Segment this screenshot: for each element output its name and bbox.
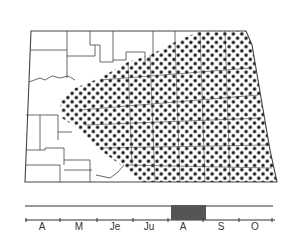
month-label-aug: A [180, 222, 187, 232]
flight-period-bar [171, 205, 206, 220]
range-area [60, 31, 277, 182]
range-map [0, 0, 298, 243]
month-label-sep: S [218, 222, 225, 232]
month-label-apr: A [39, 222, 46, 232]
month-label-oct: O [251, 222, 259, 232]
month-label-jun: Je [110, 222, 121, 232]
phenology-timeline [25, 205, 275, 222]
month-label-jul: Ju [144, 222, 155, 232]
month-label-may: M [75, 222, 83, 232]
